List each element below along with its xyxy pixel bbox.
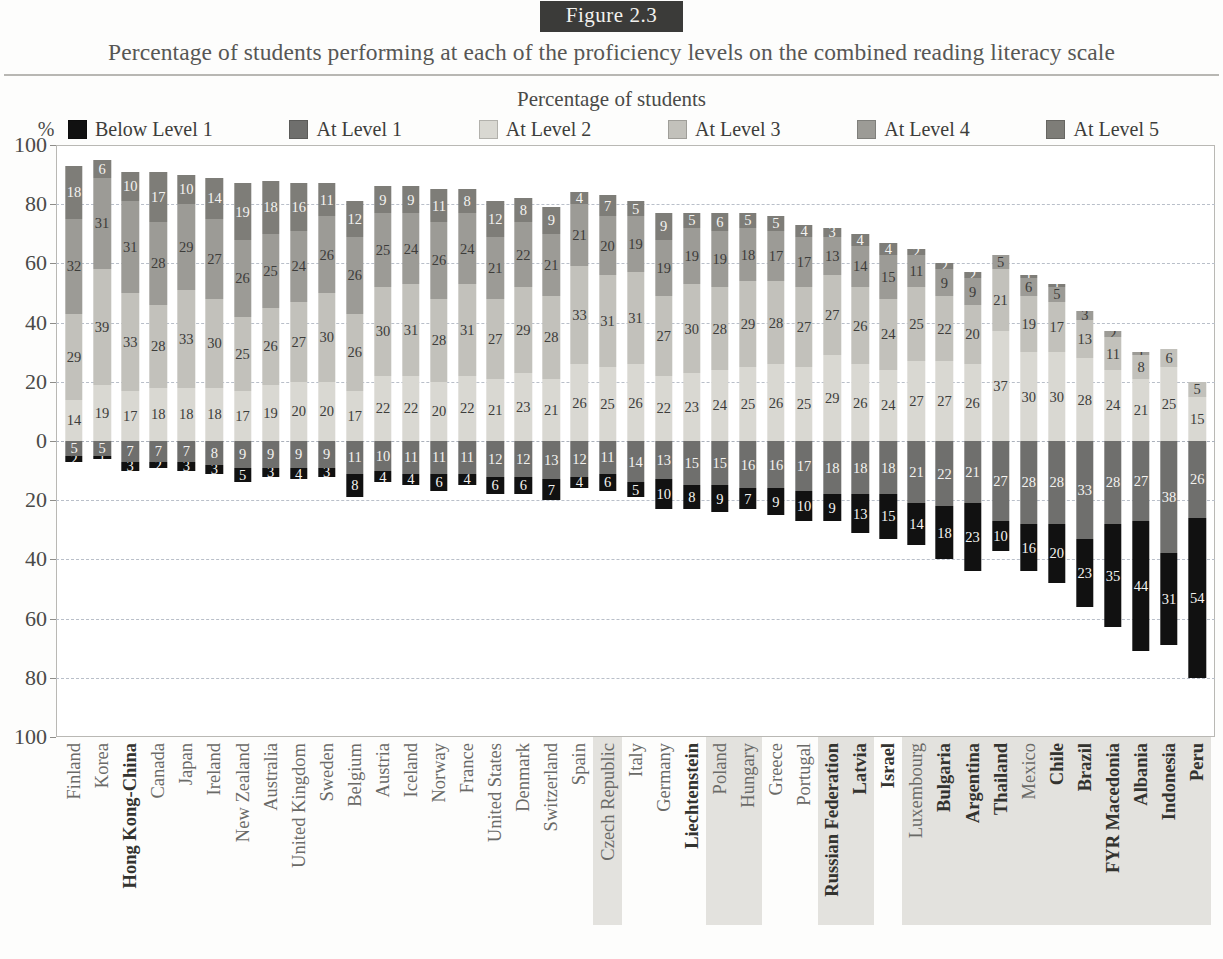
x-label-column[interactable]: Denmark [509, 737, 537, 925]
bar-column[interactable]: 2529185167 [734, 145, 762, 737]
bar-segment-value: 8 [351, 478, 358, 493]
bar-column[interactable]: 2030261193 [313, 145, 341, 737]
bar-segment-level3: 31 [458, 284, 475, 376]
x-label-column[interactable]: Italy [622, 737, 650, 925]
x-label-column[interactable]: Spain [565, 737, 593, 925]
bar-segment-level1: 5 [65, 441, 82, 456]
bar-column[interactable]: 193931651 [88, 145, 116, 737]
x-label-column[interactable]: Portugal [790, 737, 818, 925]
x-label-column[interactable]: Australia [257, 737, 285, 925]
x-axis-label: United Kingdom [288, 743, 309, 868]
x-label-column[interactable]: Latvia [846, 737, 874, 925]
bar-segment-value: 5 [997, 255, 1004, 270]
x-label-column[interactable]: Bulgaria [930, 737, 958, 925]
x-label-column[interactable]: Greece [762, 737, 790, 925]
legend-item-at-level-3[interactable]: At Level 3 [668, 118, 781, 141]
bar-column[interactable]: 2927133189 [818, 145, 846, 737]
bar-column[interactable]: 2231249114 [397, 145, 425, 737]
x-label-column[interactable]: Germany [650, 737, 678, 925]
bar-column[interactable]: 2428196159 [706, 145, 734, 737]
bar-column[interactable]: 1926251893 [257, 145, 285, 737]
x-label-column[interactable]: Austria [369, 737, 397, 925]
x-label-column[interactable]: Hong Kong-China [116, 737, 144, 925]
bar-column[interactable]: 2563831 [1155, 145, 1183, 737]
x-label-column[interactable]: Hungary [734, 737, 762, 925]
bar-column[interactable]: 2128219137 [537, 145, 565, 737]
x-axis-label: Thailand [990, 743, 1011, 815]
bar-column[interactable]: 372152710 [987, 145, 1015, 737]
bar-column[interactable]: 2230259104 [369, 145, 397, 737]
x-label-column[interactable]: Thailand [987, 737, 1015, 925]
bar-column[interactable]: 2027241694 [285, 145, 313, 737]
x-label-column[interactable]: Canada [144, 737, 172, 925]
bar-column[interactable]: 25271741710 [790, 145, 818, 737]
x-label-column[interactable]: Indonesia [1155, 737, 1183, 925]
x-label-column[interactable]: Japan [172, 737, 200, 925]
x-label-column[interactable]: Peru [1183, 737, 1211, 925]
bar-column[interactable]: 17262612118 [341, 145, 369, 737]
bar-column[interactable]: 1733311073 [116, 145, 144, 737]
x-label-column[interactable]: Korea [88, 737, 116, 925]
bar-segment-value: 6 [520, 478, 527, 493]
x-label-column[interactable]: Sweden [313, 737, 341, 925]
x-label-column[interactable]: Liechtenstein [678, 737, 706, 925]
bar-column[interactable]: 241122835 [1099, 145, 1127, 737]
bar-column[interactable]: 2628175169 [762, 145, 790, 737]
bar-column[interactable]: 24241541815 [874, 145, 902, 737]
x-label-column[interactable]: Israel [874, 737, 902, 925]
bar-column[interactable]: 3017512820 [1043, 145, 1071, 737]
bar-column[interactable]: 21812744 [1127, 145, 1155, 737]
x-label-column[interactable]: France [453, 737, 481, 925]
x-label-column[interactable]: Ireland [200, 737, 228, 925]
legend-item-at-level-4[interactable]: At Level 4 [857, 118, 970, 141]
bar-column[interactable]: 2329228126 [509, 145, 537, 737]
bar-column[interactable]: 2633214124 [565, 145, 593, 737]
bar-segment-value: 21 [572, 228, 587, 243]
bar-column[interactable]: 1552654 [1183, 145, 1211, 737]
bar-column[interactable]: 1830271483 [200, 145, 228, 737]
bar-column[interactable]: 2231248114 [453, 145, 481, 737]
legend: % Below Level 1At Level 1At Level 2At Le… [0, 112, 1223, 145]
bar-segment-value: 10 [376, 449, 391, 464]
x-label-column[interactable]: Brazil [1071, 737, 1099, 925]
x-label-column[interactable]: New Zealand [228, 737, 256, 925]
bar-segment-level5: 7 [599, 195, 616, 216]
bar-column[interactable]: 21272112126 [481, 145, 509, 737]
bar-column[interactable]: 1833291073 [172, 145, 200, 737]
x-label-column[interactable]: Mexico [1015, 737, 1043, 925]
legend-item-at-level-1[interactable]: At Level 1 [289, 118, 402, 141]
legend-item-below-level-1[interactable]: Below Level 1 [68, 118, 213, 141]
x-label-column[interactable]: United Kingdom [285, 737, 313, 925]
bar-column[interactable]: 22271991310 [650, 145, 678, 737]
x-label-column[interactable]: Russian Federation [818, 737, 846, 925]
x-label-column[interactable]: FYR Macedonia [1099, 737, 1127, 925]
x-label-column[interactable]: Albania [1127, 737, 1155, 925]
x-label-column[interactable]: Poland [706, 737, 734, 925]
legend-item-at-level-2[interactable]: At Level 2 [479, 118, 592, 141]
x-label-column[interactable]: Belgium [341, 737, 369, 925]
bar-segment-level5: 4 [852, 234, 869, 246]
bar-column[interactable]: 1429321852 [60, 145, 88, 737]
bar-column[interactable]: 281333323 [1071, 145, 1099, 737]
bar-column[interactable]: 2620922123 [959, 145, 987, 737]
x-label-column[interactable]: Luxembourg [902, 737, 930, 925]
bar-column[interactable]: 26261441813 [846, 145, 874, 737]
bar-column[interactable]: 2722922218 [930, 145, 958, 737]
x-label-column[interactable]: Switzerland [537, 737, 565, 925]
bar-column[interactable]: 1828281772 [144, 145, 172, 737]
bar-column[interactable]: 1725261995 [228, 145, 256, 737]
x-label-column[interactable]: United States [481, 737, 509, 925]
x-label-column[interactable]: Norway [425, 737, 453, 925]
legend-item-at-level-5[interactable]: At Level 5 [1046, 118, 1159, 141]
x-label-column[interactable]: Finland [60, 737, 88, 925]
bar-column[interactable]: 2631195145 [622, 145, 650, 737]
x-label-column[interactable]: Iceland [397, 737, 425, 925]
bar-column[interactable]: 2531207116 [593, 145, 621, 737]
bar-column[interactable]: 2330195158 [678, 145, 706, 737]
x-label-column[interactable]: Chile [1043, 737, 1071, 925]
bar-column[interactable]: 20282611116 [425, 145, 453, 737]
bar-column[interactable]: 27251122114 [902, 145, 930, 737]
x-label-column[interactable]: Argentina [959, 737, 987, 925]
bar-column[interactable]: 3019612816 [1015, 145, 1043, 737]
x-label-column[interactable]: Czech Republic [593, 737, 621, 925]
